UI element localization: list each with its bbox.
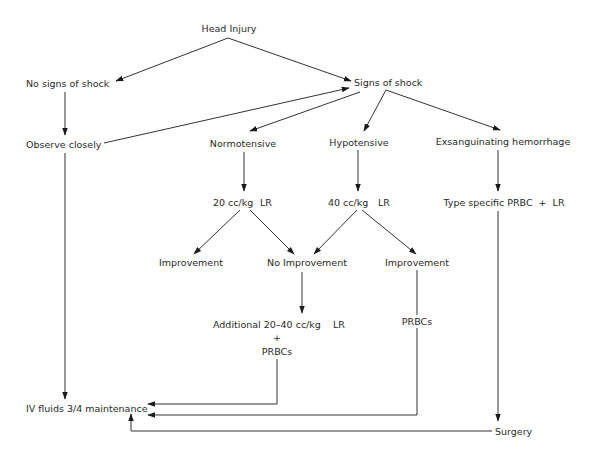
node-surgery: Surgery — [495, 426, 533, 437]
node-no-improvement: No Improvement — [267, 257, 347, 268]
edges — [65, 38, 500, 431]
node-no-signs-of-shock: No signs of shock — [26, 78, 110, 89]
edge-20cc-to-improvement — [194, 210, 240, 254]
edge-head-to-no-shock — [116, 38, 228, 81]
edge-head-to-shock — [228, 38, 351, 81]
node-additional-dose: Additional 20–40 cc/kg — [213, 319, 321, 330]
node-observe-closely: Observe closely — [26, 139, 102, 150]
nodes: Head Injury No signs of shock Signs of s… — [26, 23, 570, 437]
edge-shock-to-hypotensive — [364, 90, 386, 131]
node-prbcs-right: PRBCs — [402, 316, 432, 327]
node-exsanguinating-hemorrhage: Exsanguinating hemorrhage — [436, 136, 571, 147]
node-iv-fluids-maintenance: IV fluids 3/4 maintenance — [26, 403, 148, 414]
node-20cc-unit: LR — [260, 197, 272, 208]
edge-20cc-to-no-improvement — [250, 210, 294, 254]
node-40cc-unit: LR — [378, 197, 390, 208]
edge-prbcs-center-to-iv-fluids — [148, 359, 277, 404]
node-additional-unit: LR — [333, 319, 345, 330]
edge-prbcs-right-to-iv-fluids — [148, 328, 417, 415]
head-injury-flowchart: Head Injury No signs of shock Signs of s… — [0, 0, 591, 458]
node-improvement-left: Improvement — [159, 257, 223, 268]
node-40cc-dose: 40 cc/kg — [328, 197, 368, 208]
edge-surgery-to-iv-fluids — [131, 414, 492, 431]
node-hypotensive: Hypotensive — [329, 137, 388, 148]
node-20cc-dose: 20 cc/kg — [213, 197, 253, 208]
node-head-injury: Head Injury — [202, 23, 257, 34]
node-additional-plus: + — [273, 332, 281, 343]
edge-shock-to-exsanguinating — [386, 90, 500, 130]
node-signs-of-shock: Signs of shock — [354, 77, 423, 88]
edge-40cc-to-no-improvement — [314, 210, 357, 254]
edge-40cc-to-improvement — [362, 210, 416, 254]
node-type-specific-prbc: Type specific PRBC + LR — [443, 197, 565, 208]
edge-observe-to-shock — [104, 88, 349, 143]
node-prbcs-center: PRBCs — [262, 346, 292, 357]
node-improvement-right: Improvement — [385, 257, 449, 268]
node-normotensive: Normotensive — [210, 138, 277, 149]
